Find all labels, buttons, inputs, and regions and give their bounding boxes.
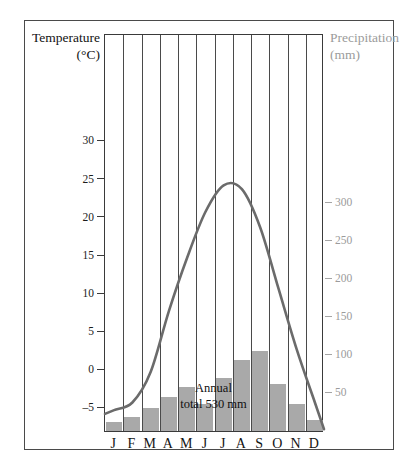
left-axis-tick-mark bbox=[97, 407, 104, 408]
right-axis-tick: 150 bbox=[325, 310, 352, 322]
right-axis-tick: 200 bbox=[325, 272, 352, 284]
left-axis-tick-mark bbox=[97, 255, 104, 256]
right-axis-tick-mark bbox=[325, 354, 332, 355]
right-axis-tick: 250 bbox=[325, 234, 352, 246]
right-axis-tick-label: 250 bbox=[335, 234, 352, 246]
right-axis-tick: 50 bbox=[325, 386, 347, 398]
month-label: F bbox=[122, 436, 140, 452]
left-axis-tick: 20 bbox=[52, 211, 104, 223]
left-axis-tick: 30 bbox=[52, 134, 104, 146]
annual-total-line2: total 530 mm bbox=[104, 396, 323, 412]
month-label: M bbox=[141, 436, 159, 452]
left-axis-tick-label: 20 bbox=[83, 211, 95, 223]
right-axis-tick-label: 300 bbox=[335, 196, 352, 208]
left-axis-tick-mark bbox=[97, 331, 104, 332]
right-axis-tick-mark bbox=[325, 278, 332, 279]
left-axis-tick-mark bbox=[97, 140, 104, 141]
month-label: S bbox=[250, 436, 268, 452]
temperature-curve bbox=[105, 35, 324, 433]
left-axis-tick: –5 bbox=[52, 401, 104, 413]
month-label: O bbox=[268, 436, 286, 452]
left-axis-tick-mark bbox=[97, 369, 104, 370]
left-axis-title-line1: Temperature bbox=[18, 29, 100, 46]
left-axis-tick-label: –5 bbox=[83, 401, 95, 413]
left-axis-tick-label: 10 bbox=[83, 287, 95, 299]
right-axis-tick-label: 100 bbox=[335, 348, 352, 360]
left-axis-title-line2: (°C) bbox=[18, 46, 100, 63]
left-axis-tick-label: 5 bbox=[88, 325, 94, 337]
right-axis-tick-mark bbox=[325, 202, 332, 203]
right-axis-tick: 300 bbox=[325, 196, 352, 208]
month-label: A bbox=[159, 436, 177, 452]
clipped-header-text bbox=[0, 0, 412, 3]
left-axis-tick-label: 0 bbox=[88, 363, 94, 375]
right-axis-tick-label: 200 bbox=[335, 272, 352, 284]
right-axis-title: Precipitation (mm) bbox=[330, 29, 408, 63]
annual-total-annotation: Annual total 530 mm bbox=[104, 380, 323, 412]
right-axis-tick: 100 bbox=[325, 348, 352, 360]
right-axis-tick-mark bbox=[325, 392, 332, 393]
month-label: J bbox=[104, 436, 122, 452]
left-axis-tick-mark bbox=[97, 293, 104, 294]
left-axis-tick: 15 bbox=[52, 249, 104, 261]
month-label: D bbox=[305, 436, 323, 452]
month-label: J bbox=[195, 436, 213, 452]
left-axis-title: Temperature (°C) bbox=[18, 29, 100, 63]
month-label: M bbox=[177, 436, 195, 452]
right-axis-tick-label: 50 bbox=[335, 386, 347, 398]
month-axis-labels: JFMAMJJASOND bbox=[104, 436, 323, 458]
left-axis-tick-label: 15 bbox=[83, 249, 95, 261]
left-axis-tick: 10 bbox=[52, 287, 104, 299]
annual-total-line1: Annual bbox=[104, 380, 323, 396]
month-label: A bbox=[232, 436, 250, 452]
month-label: N bbox=[287, 436, 305, 452]
left-axis-tick-label: 25 bbox=[83, 173, 95, 185]
right-axis-tick-mark bbox=[325, 240, 332, 241]
right-axis-tick-mark bbox=[325, 316, 332, 317]
left-axis-tick: 25 bbox=[52, 173, 104, 185]
left-axis-tick-label: 30 bbox=[83, 134, 95, 146]
right-axis-title-line1: Precipitation bbox=[330, 29, 408, 46]
left-axis-tick: 5 bbox=[52, 325, 104, 337]
climate-chart-figure: Temperature (°C) Precipitation (mm) 3025… bbox=[0, 0, 412, 466]
left-axis-tick-mark bbox=[97, 178, 104, 179]
right-axis-tick-label: 150 bbox=[335, 310, 352, 322]
left-axis-tick: 0 bbox=[52, 363, 104, 375]
left-axis-tick-mark bbox=[97, 216, 104, 217]
plot-area bbox=[104, 34, 323, 432]
month-label: J bbox=[214, 436, 232, 452]
right-axis-title-line2: (mm) bbox=[330, 46, 408, 63]
